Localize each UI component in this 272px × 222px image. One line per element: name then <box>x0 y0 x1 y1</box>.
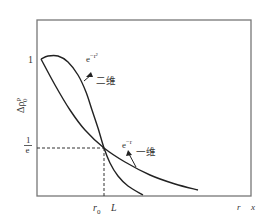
chart-figure: 1 1 e Δρp0 r0 L r x e−r² 二维 e−r 一维 <box>0 0 272 222</box>
curve-e-minus-r <box>41 59 198 190</box>
y-axis-label: Δρp0 <box>14 98 29 113</box>
label-two-d: 二维 <box>96 75 116 86</box>
y-label-sub: 0 <box>21 98 29 102</box>
formula-one-d: e−r <box>122 138 133 150</box>
formula-two-d: e−r² <box>86 52 98 64</box>
svg-text:Δρp0: Δρp0 <box>14 98 29 113</box>
label-one-d: 一维 <box>136 146 156 157</box>
formula-two-d-exp: −r² <box>90 52 98 59</box>
y-tick-one: 1 <box>28 54 33 65</box>
y-tick-inv-e-numerator: 1 <box>26 135 31 145</box>
x-tick-r0-sub: 0 <box>97 208 101 216</box>
x-axis-label: x <box>250 202 255 212</box>
y-tick-inv-e-denominator: e <box>26 145 30 155</box>
y-label-main: Δρ <box>15 102 26 113</box>
x-tick-L: L <box>110 202 117 213</box>
arrow-one-d <box>126 150 136 167</box>
chart-svg: 1 1 e Δρp0 r0 L r x e−r² 二维 e−r 一维 <box>0 0 272 222</box>
x-tick-r0: r0 <box>93 202 101 216</box>
y-tick-inv-e: 1 e <box>24 135 32 155</box>
x-tick-r: r <box>237 202 241 212</box>
formula-one-d-exp: −r <box>126 138 133 145</box>
arrow-two-d <box>84 72 93 81</box>
